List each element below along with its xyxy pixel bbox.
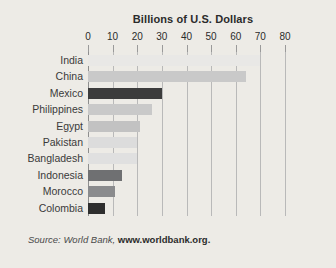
category-label: Morocco — [43, 183, 83, 199]
x-tick-label: 10 — [107, 31, 118, 42]
bar-row: Morocco — [88, 183, 285, 200]
source-url: www.worldbank.org. — [118, 234, 211, 245]
bar-row: Mexico — [88, 85, 285, 102]
x-tick-label: 20 — [132, 31, 143, 42]
bar-row: Philippines — [88, 101, 285, 118]
x-tick-mark — [211, 45, 212, 52]
bar — [88, 55, 260, 66]
bar — [88, 71, 246, 82]
x-tick-mark — [137, 45, 138, 52]
x-tick-mark — [113, 45, 114, 52]
bar — [88, 153, 137, 164]
source-note: Source: World Bank, www.worldbank.org. — [28, 234, 210, 245]
x-tick-mark — [162, 45, 163, 52]
x-axis: 01020304050607080 — [88, 31, 285, 52]
category-label: India — [60, 52, 83, 68]
x-tick-label: 40 — [181, 31, 192, 42]
x-tick-label: 80 — [279, 31, 290, 42]
bar-row: India — [88, 52, 285, 69]
chart-title: Billions of U.S. Dollars — [88, 13, 298, 25]
bar — [88, 104, 152, 115]
category-label: Pakistan — [43, 134, 83, 150]
chart-figure: Billions of U.S. Dollars 010203040506070… — [0, 0, 336, 268]
bar-row: Indonesia — [88, 167, 285, 184]
bar-row: Colombia — [88, 200, 285, 217]
gridline — [285, 52, 286, 216]
x-tick-label: 70 — [255, 31, 266, 42]
category-label: China — [56, 68, 83, 84]
x-tick-label: 30 — [156, 31, 167, 42]
bar-row: Egypt — [88, 118, 285, 135]
bar-row: Bangladesh — [88, 150, 285, 167]
x-tick-label: 0 — [85, 31, 91, 42]
category-label: Egypt — [56, 118, 83, 134]
category-label: Bangladesh — [28, 150, 83, 166]
x-tick-mark — [236, 45, 237, 52]
bar-row: Pakistan — [88, 134, 285, 151]
category-label: Indonesia — [37, 167, 83, 183]
source-prefix: Source: World Bank, — [28, 234, 118, 245]
bar — [88, 121, 140, 132]
bar — [88, 186, 115, 197]
bar-row: China — [88, 68, 285, 85]
x-tick-label: 50 — [206, 31, 217, 42]
x-tick-mark — [260, 45, 261, 52]
category-label: Mexico — [50, 85, 83, 101]
x-tick-mark — [285, 45, 286, 52]
bar — [88, 137, 137, 148]
x-tick-mark — [187, 45, 188, 52]
x-tick-mark — [88, 45, 89, 52]
x-tick-label: 60 — [230, 31, 241, 42]
plot-area: IndiaChinaMexicoPhilippinesEgyptPakistan… — [88, 52, 285, 216]
bar — [88, 170, 122, 181]
bar — [88, 88, 162, 99]
bar — [88, 203, 105, 214]
category-label: Philippines — [32, 101, 83, 117]
category-label: Colombia — [39, 200, 83, 216]
